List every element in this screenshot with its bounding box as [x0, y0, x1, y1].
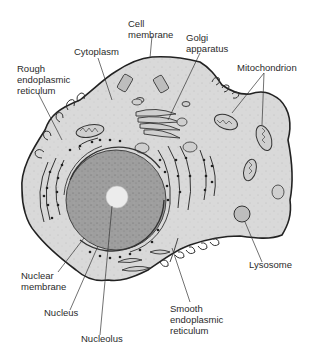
- label-nuclear-membrane: Nuclear membrane: [21, 270, 66, 292]
- animal-cell-diagram: [0, 0, 313, 360]
- label-nucleolus: Nucleolus: [81, 333, 123, 344]
- label-smooth-er: Smooth endoplasmic reticulum: [170, 303, 223, 336]
- lysosome: [234, 206, 250, 222]
- label-mitochondrion: Mitochondrion: [237, 62, 297, 73]
- label-golgi-apparatus: Golgi apparatus: [186, 32, 228, 54]
- label-rough-er: Rough endoplasmic reticulum: [17, 63, 70, 96]
- label-cell-membrane: Cell membrane: [128, 18, 173, 40]
- label-cytoplasm: Cytoplasm: [74, 46, 119, 57]
- label-nucleus: Nucleus: [44, 307, 78, 318]
- nucleolus: [106, 186, 128, 208]
- label-lysosome: Lysosome: [249, 259, 292, 270]
